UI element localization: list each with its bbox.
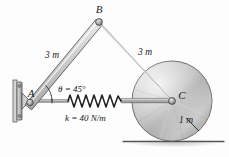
wall-bolt-top bbox=[18, 85, 21, 88]
link-ab bbox=[25, 20, 102, 110]
wall-backing bbox=[13, 80, 17, 122]
label-point-b: B bbox=[96, 3, 103, 15]
pin-joint-a bbox=[27, 99, 33, 105]
label-disk-radius: 1 m bbox=[179, 115, 193, 125]
label-point-c: C bbox=[178, 89, 186, 101]
diagram-canvas: A B C 3 m 3 m θ = 45° k = 40 N/m 1 m bbox=[0, 0, 229, 157]
pin-joint-b bbox=[96, 19, 103, 26]
label-spring-constant: k = 40 N/m bbox=[65, 113, 106, 123]
mechanics-diagram: A B C 3 m 3 m θ = 45° k = 40 N/m 1 m bbox=[0, 0, 229, 157]
pin-joint-c bbox=[169, 98, 176, 105]
spring-coil bbox=[68, 95, 121, 107]
link-ab-body bbox=[25, 20, 102, 110]
rod-c-segment bbox=[121, 98, 173, 102]
label-link-ab-length: 3 m bbox=[44, 50, 59, 60]
label-angle: θ = 45° bbox=[58, 84, 86, 94]
label-link-bc-length: 3 m bbox=[137, 47, 152, 57]
label-point-a: A bbox=[27, 87, 35, 99]
wall-bolt-bottom bbox=[18, 115, 21, 118]
